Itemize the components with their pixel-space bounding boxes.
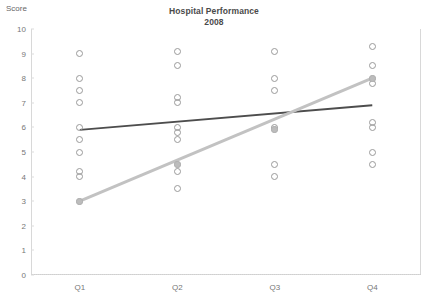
y-axis-tick-mark [31,225,34,226]
x-axis-tick-label: Q3 [269,283,280,292]
data-point-marker [369,43,376,50]
x-axis-tick-label: Q4 [367,283,378,292]
data-point-marker [76,149,83,156]
y-axis-tick-mark [31,176,34,177]
y-axis-tick-mark [31,53,34,54]
data-point-marker [369,161,376,168]
y-axis-tick-label: 0 [22,271,26,280]
y-axis-tick-label: 8 [22,74,26,83]
chart-title-block: Hospital Performance 2008 [0,6,428,28]
y-axis-tick-mark [31,250,34,251]
y-axis-tick-label: 6 [22,123,26,132]
y-axis-tick-mark [31,152,34,153]
mean-marker [76,198,83,205]
data-point-marker [174,48,181,55]
y-axis-tick-label: 2 [22,221,26,230]
y-axis-tick-label: 4 [22,172,26,181]
data-point-marker [174,136,181,143]
chart-title: Hospital Performance [0,6,428,17]
mean-marker [369,75,376,82]
y-axis-tick-mark [31,275,34,276]
trendlines-layer [31,29,421,275]
y-axis-tick-label: 10 [17,25,26,34]
data-point-marker [271,75,278,82]
plot-area: 012345678910Q1Q2Q3Q4 [31,29,421,275]
y-axis-tick-mark [31,102,34,103]
dark-trendline [80,105,373,130]
y-axis-tick-mark [31,29,34,30]
x-axis-tick-label: Q2 [172,283,183,292]
y-axis-tick-mark [31,127,34,128]
chart-container: Hospital Performance 2008 Score 01234567… [0,0,428,292]
data-point-marker [174,168,181,175]
y-axis-tick-mark [31,201,34,202]
data-point-marker [174,129,181,136]
data-point-marker [369,149,376,156]
y-axis-tick-label: 5 [22,148,26,157]
data-point-marker [271,161,278,168]
y-axis-label: Score [6,4,27,13]
mean-marker [174,161,181,168]
chart-subtitle: 2008 [0,17,428,28]
y-axis-tick-label: 3 [22,197,26,206]
y-axis-tick-label: 9 [22,49,26,58]
data-point-marker [369,124,376,131]
data-point-marker [271,48,278,55]
y-axis-tick-label: 1 [22,246,26,255]
y-axis-tick-label: 7 [22,98,26,107]
data-point-marker [76,75,83,82]
x-axis-tick-label: Q1 [74,283,85,292]
light-trendline [80,78,373,201]
y-axis-tick-mark [31,78,34,79]
